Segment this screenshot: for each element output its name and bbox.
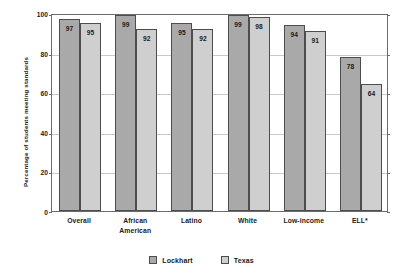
bar <box>59 19 80 211</box>
y-tickmark-right <box>387 55 390 56</box>
bar <box>115 15 136 211</box>
bar <box>136 29 157 211</box>
x-category-label-line: American <box>95 226 175 236</box>
bar-group: 9998 <box>228 15 270 211</box>
x-category-label: ELL* <box>320 216 400 226</box>
bar-group: 9992 <box>115 15 157 211</box>
bar-group: 9592 <box>171 15 213 211</box>
x-axis-category-labels: OverallAfricanAmericanLatinoWhiteLow-inc… <box>51 216 388 246</box>
bar <box>192 29 213 211</box>
bar <box>171 23 192 211</box>
bar-group: 9491 <box>284 15 326 211</box>
y-tick-label: 20 <box>26 169 48 176</box>
bar-group: 9795 <box>59 15 101 211</box>
y-tickmark-right <box>387 212 390 213</box>
y-tickmark-right <box>387 173 390 174</box>
y-tick-label: 0 <box>26 209 48 216</box>
bar-chart-figure: Percentage of students meeting standards… <box>0 0 403 276</box>
bar-value-label: 95 <box>171 29 192 36</box>
bar-value-label: 94 <box>284 31 305 38</box>
y-tick-label: 40 <box>26 129 48 136</box>
bar-groups: 979599929592999894917864 <box>52 15 387 211</box>
bar-value-label: 91 <box>305 37 326 44</box>
legend-label: Texas <box>234 257 254 264</box>
bar <box>284 25 305 211</box>
bar <box>305 31 326 211</box>
chart-legend: LockhartTexas <box>0 253 403 267</box>
legend-swatch-icon <box>149 256 157 264</box>
bar-value-label: 92 <box>136 35 157 42</box>
bar-value-label: 98 <box>249 23 270 30</box>
y-tickmark-right <box>387 134 390 135</box>
y-tickmark <box>49 212 52 213</box>
bar-value-label: 97 <box>59 25 80 32</box>
bar <box>249 17 270 211</box>
bar <box>228 15 249 211</box>
x-category-label-line: ELL* <box>320 216 400 226</box>
y-axis-tick-labels: 020406080100 <box>26 14 48 212</box>
bar-group: 7864 <box>340 15 382 211</box>
y-tick-label: 100 <box>26 11 48 18</box>
y-tick-label: 60 <box>26 90 48 97</box>
bar-value-label: 99 <box>115 21 136 28</box>
legend-item[interactable]: Lockhart <box>149 256 193 264</box>
bar-value-label: 99 <box>228 21 249 28</box>
bar-value-label: 92 <box>192 35 213 42</box>
plot-area: 979599929592999894917864 <box>51 14 388 212</box>
y-tickmark-right <box>387 15 390 16</box>
bar <box>80 23 101 211</box>
bar-value-label: 95 <box>80 29 101 36</box>
bar <box>361 84 382 211</box>
legend-swatch-icon <box>221 256 229 264</box>
bar <box>340 57 361 211</box>
legend-item[interactable]: Texas <box>221 256 254 264</box>
legend-label: Lockhart <box>162 257 193 264</box>
bar-value-label: 64 <box>361 90 382 97</box>
bar-value-label: 78 <box>340 63 361 70</box>
y-tickmark-right <box>387 94 390 95</box>
y-tick-label: 80 <box>26 50 48 57</box>
